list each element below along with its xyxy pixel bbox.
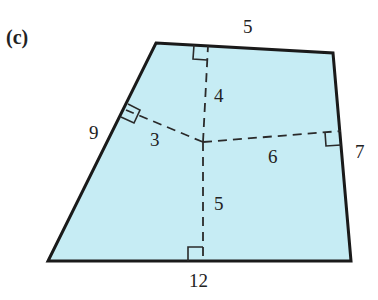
diagram-svg xyxy=(0,0,378,300)
part-label: (c) xyxy=(6,27,28,47)
distance-label-right: 6 xyxy=(268,147,278,166)
distance-label-left: 3 xyxy=(150,130,160,149)
side-length-left: 9 xyxy=(89,123,99,142)
distance-label-top: 4 xyxy=(214,86,224,105)
quadrilateral-shape xyxy=(48,43,351,261)
quadrilateral-diagram: (c) 5 7 12 9 4 3 6 5 xyxy=(0,0,378,300)
side-length-bottom: 12 xyxy=(189,271,208,290)
distance-label-bottom: 5 xyxy=(214,194,224,213)
side-length-right: 7 xyxy=(355,142,365,161)
side-length-top: 5 xyxy=(243,17,253,36)
